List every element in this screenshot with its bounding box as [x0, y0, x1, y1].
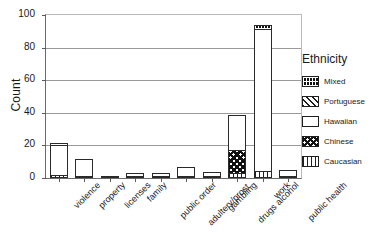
legend-label: Mixed — [324, 77, 345, 86]
y-tick-mark — [42, 178, 46, 179]
y-axis-tick-labels: 020406080100 — [9, 0, 35, 246]
bar-stack — [254, 25, 272, 178]
legend-item-mixed[interactable]: Mixed — [302, 75, 381, 88]
bar-segment-hawaiian — [75, 159, 93, 177]
legend-item-hawaiian[interactable]: Hawaiian — [302, 115, 381, 128]
x-tick-label-text: property — [97, 180, 127, 210]
bar-segment-hawaiian — [50, 145, 68, 176]
chart-figure: Count 020406080100 violencepropertylicen… — [0, 0, 381, 246]
x-tick-label: violence — [71, 180, 101, 210]
x-tick-label: property — [97, 180, 127, 210]
x-tick-label-text: public health — [306, 180, 349, 223]
bar-stack — [279, 170, 297, 178]
y-tick-label: 60 — [9, 74, 35, 84]
legend-title: Ethnicity — [302, 52, 381, 66]
y-tick-label: 0 — [9, 172, 35, 182]
legend-swatch-portuguese — [302, 96, 319, 107]
y-tick-label: 100 — [9, 9, 35, 19]
legend-label: Caucasian — [324, 157, 362, 166]
legend-item-portuguese[interactable]: Portuguese — [302, 95, 381, 108]
legend-item-caucasian[interactable]: Caucasian — [302, 155, 381, 168]
bar-stack — [228, 115, 246, 178]
legend-label: Chinese — [324, 137, 353, 146]
legend-item-chinese[interactable]: Chinese — [302, 135, 381, 148]
x-tick-label: public health — [306, 180, 349, 223]
x-tick-label-text: violence — [71, 180, 101, 210]
bar-segment-hawaiian — [254, 29, 272, 172]
legend-swatch-caucasian — [302, 156, 319, 167]
bars-layer — [46, 15, 301, 178]
x-axis-tick-labels: violencepropertylicensesfamilypublic ord… — [45, 180, 302, 246]
bar-stack — [75, 159, 93, 178]
legend-label: Portuguese — [324, 97, 365, 106]
plot-area — [45, 14, 302, 179]
legend-items: MixedPortugueseHawaiianChineseCaucasian — [302, 75, 381, 168]
legend-swatch-hawaiian — [302, 116, 319, 127]
y-tick-label: 40 — [9, 107, 35, 117]
legend-swatch-mixed — [302, 76, 319, 87]
bar-segment-hawaiian — [228, 115, 246, 151]
legend: Ethnicity MixedPortugueseHawaiianChinese… — [302, 52, 381, 175]
y-tick-label: 20 — [9, 139, 35, 149]
y-tick-label: 80 — [9, 42, 35, 52]
bar-stack — [50, 143, 68, 178]
legend-label: Hawaiian — [324, 117, 357, 126]
bar-segment-chinese — [228, 150, 246, 174]
bar-stack — [177, 167, 195, 178]
legend-swatch-chinese — [302, 136, 319, 147]
